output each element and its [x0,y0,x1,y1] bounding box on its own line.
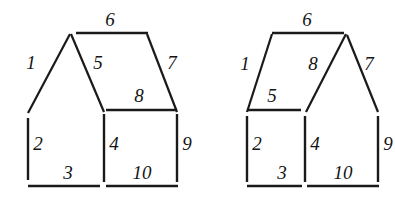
edge-label-1: 1 [26,53,36,72]
edge-label-9: 9 [383,134,393,153]
edge-label-2: 2 [33,134,43,153]
edge-label-8: 8 [308,54,318,73]
edge-label-3: 3 [63,163,73,182]
edge-label-8: 8 [134,86,144,105]
edge-label-3: 3 [277,163,287,182]
edge-segment-7 [147,34,177,112]
diagram-canvas: 1657824931016587249310 [0,0,395,201]
left-house-figure [28,33,178,186]
edge-label-9: 9 [182,134,192,153]
edge-label-2: 2 [252,134,262,153]
edge-label-6: 6 [302,10,312,29]
edge-label-4: 4 [109,134,119,153]
edge-segment-1 [28,34,70,113]
edge-label-6: 6 [105,10,115,29]
edge-label-7: 7 [167,53,177,72]
edge-segment-5 [71,34,104,112]
edge-label-1: 1 [240,54,250,73]
edge-segment-7 [347,35,378,112]
edge-label-10: 10 [133,163,152,182]
edge-label-10: 10 [334,163,353,182]
edge-label-7: 7 [364,54,374,73]
edge-label-5: 5 [267,86,277,105]
edge-label-4: 4 [310,134,320,153]
edge-label-5: 5 [93,53,103,72]
